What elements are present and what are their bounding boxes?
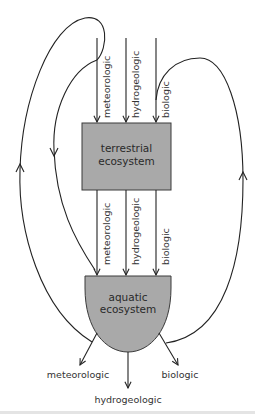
ecosystem-flow-diagram: meteorologic hydrogeologic biologic terr… — [0, 0, 255, 414]
transfer-label-biologic: biologic — [160, 228, 171, 265]
output-arrow-biologic — [159, 333, 178, 365]
aquatic-label-line2: ecosystem — [100, 303, 157, 315]
terrestrial-label-line1: terrestrial — [101, 142, 152, 154]
output-arrow-meteorologic — [80, 333, 97, 365]
output-label-hydrogeologic: hydrogeologic — [94, 394, 161, 405]
input-label-hydrogeologic: hydrogeologic — [130, 51, 141, 118]
output-label-biologic: biologic — [162, 369, 199, 380]
terrestrial-label-line2: ecosystem — [98, 155, 155, 167]
aquatic-label-line1: aquatic — [109, 291, 148, 303]
input-label-biologic: biologic — [160, 81, 171, 118]
input-label-meteorologic: meteorologic — [101, 56, 112, 118]
transfer-label-hydrogeologic: hydrogeologic — [130, 198, 141, 265]
transfer-label-meteorologic: meteorologic — [101, 203, 112, 265]
output-label-meteorologic: meteorologic — [47, 369, 109, 380]
